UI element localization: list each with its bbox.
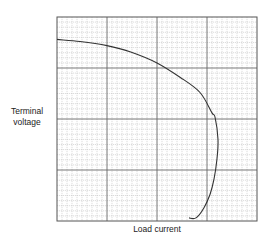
y-axis-label-line-2: voltage [2, 117, 52, 128]
y-axis-label: Terminal voltage [2, 106, 52, 128]
x-axis-label: Load current [107, 224, 207, 234]
y-axis-label-line-1: Terminal [2, 106, 52, 117]
